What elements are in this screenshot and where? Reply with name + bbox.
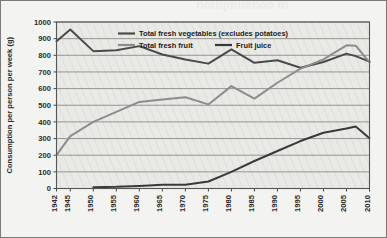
chart-figure: in consumption 0100200300400500600700800… — [0, 0, 387, 238]
svg-text:Total fresh fruit: Total fresh fruit — [139, 41, 193, 50]
svg-text:1970: 1970 — [178, 195, 187, 212]
svg-text:2010: 2010 — [363, 195, 372, 212]
svg-text:1985: 1985 — [247, 194, 256, 212]
svg-text:300: 300 — [38, 134, 51, 143]
svg-text:1960: 1960 — [132, 195, 141, 212]
svg-text:1000: 1000 — [34, 18, 51, 27]
svg-text:2005: 2005 — [339, 194, 348, 212]
svg-text:0: 0 — [47, 184, 51, 193]
x-axis-ticks: 1942194519501955196019651970197519801985… — [50, 189, 372, 212]
line-chart: 01002003004005006007008009001000 1942194… — [0, 0, 387, 238]
svg-text:1990: 1990 — [270, 195, 279, 212]
svg-text:900: 900 — [38, 34, 51, 43]
y-axis-ticks: 01002003004005006007008009001000 — [34, 18, 56, 194]
svg-text:1955: 1955 — [109, 194, 118, 212]
svg-text:1942: 1942 — [50, 195, 59, 212]
svg-text:1950: 1950 — [86, 195, 95, 212]
svg-text:Consumption per person per wee: Consumption per person per week (g) — [5, 36, 14, 173]
svg-text:600: 600 — [38, 84, 51, 93]
svg-text:100: 100 — [38, 168, 51, 177]
svg-text:500: 500 — [38, 101, 51, 110]
y-axis-title: Consumption per person per week (g) — [5, 36, 14, 173]
svg-text:700: 700 — [38, 68, 51, 77]
svg-text:2000: 2000 — [316, 195, 325, 212]
svg-text:Fruit juice: Fruit juice — [236, 41, 271, 50]
svg-text:200: 200 — [38, 151, 51, 160]
svg-text:1975: 1975 — [201, 194, 210, 212]
svg-text:1995: 1995 — [293, 194, 302, 212]
svg-text:Total fresh vegetables (exclud: Total fresh vegetables (excludes potatoe… — [139, 29, 288, 38]
svg-text:800: 800 — [38, 51, 51, 60]
svg-text:400: 400 — [38, 118, 51, 127]
svg-text:1980: 1980 — [224, 195, 233, 212]
svg-text:1965: 1965 — [155, 194, 164, 212]
svg-text:1945: 1945 — [63, 194, 72, 212]
